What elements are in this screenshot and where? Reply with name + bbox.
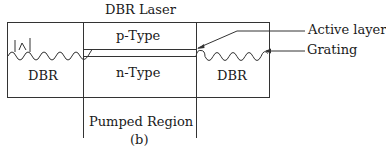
left-dbr-label: DBR [28,69,58,83]
grating-annotation: Grating [307,43,357,57]
active-layer-arrowhead [197,44,205,49]
active-layer-annotation: Active layer [308,23,386,37]
diagram-title: DBR Laser [105,3,176,17]
p-type-label: p-Type [116,29,160,43]
figure-caption: (b) [130,133,148,147]
pumped-region-label: Pumped Region [89,115,193,129]
left-grating [8,50,92,61]
n-type-label: n-Type [116,66,160,80]
right-grating [196,50,268,60]
left-grating-spikes [15,38,30,52]
right-dbr-label: DBR [217,69,247,83]
active-layer-leader [198,31,305,48]
